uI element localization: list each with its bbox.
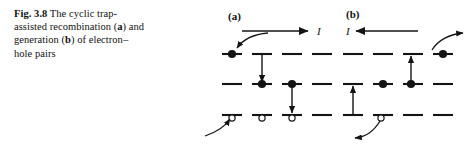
figure-root: Fig. 3.8 The cyclic trap- assisted recom…	[0, 0, 473, 150]
caption-segment-3e: ) of	[71, 34, 86, 45]
band-diagram: (a) I	[200, 0, 473, 150]
panel-a-electron-conduction	[228, 50, 236, 58]
panel-b-current-label: I	[345, 25, 351, 37]
panel-a-current-label: I	[316, 25, 322, 37]
panel-b-electron-out-arrow	[432, 33, 463, 50]
panel-a: (a) I	[205, 10, 332, 136]
panel-b-tag: (b)	[346, 8, 360, 21]
panel-a-hole-3	[289, 115, 295, 121]
panel-a-hole-in-arrow	[205, 119, 230, 136]
panel-a-hole-2	[259, 115, 265, 121]
figure-number: Fig. 3.8	[14, 8, 47, 19]
panel-a-electron-trap-2	[288, 80, 296, 88]
caption-segment-2: assisted recombination	[14, 21, 111, 32]
panel-b-hole-out-arrow	[355, 121, 380, 138]
panel-a-electron-trap-1	[258, 80, 266, 88]
panel-b-electron-trap-1	[379, 80, 387, 88]
panel-a-tag: (a)	[228, 10, 241, 23]
panel-b-hole-1	[378, 115, 384, 121]
panel-b: (b) I	[343, 8, 463, 138]
panel-b-electron-conduction	[439, 50, 447, 58]
figure-caption: Fig. 3.8 The cyclic trap- assisted recom…	[14, 7, 146, 60]
panel-b-electron-trap-2	[407, 80, 415, 88]
panel-a-electron-in-arrow	[237, 33, 268, 48]
caption-segment-1: The cyclic trap-	[47, 8, 117, 19]
